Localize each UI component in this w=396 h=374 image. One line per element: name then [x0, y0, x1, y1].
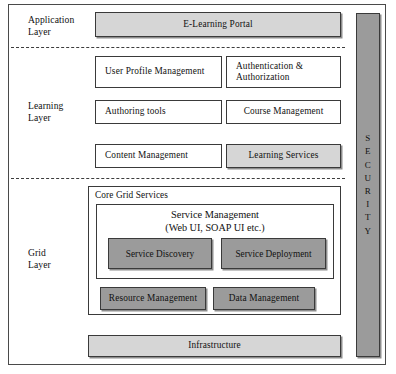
box-e-learning-portal-label: E-Learning Portal	[183, 19, 252, 31]
box-authoring-tools-label: Authoring tools	[105, 106, 166, 118]
box-e-learning-portal[interactable]: E-Learning Portal	[95, 12, 341, 37]
service-management-subtitle: (Web UI, SOAP UI etc.)	[97, 222, 333, 234]
box-data-management-label: Data Management	[229, 293, 300, 305]
layer-label-learning-line2: Layer	[28, 112, 63, 124]
layer-label-learning-line1: Learning	[28, 100, 63, 112]
security-column-label: S E C U R I T Y	[365, 132, 372, 238]
security-letter-s: S	[365, 132, 370, 145]
layer-label-grid-line2: Layer	[28, 259, 51, 271]
box-content-management[interactable]: Content Management	[95, 144, 222, 168]
layer-label-application-line1: Application	[28, 14, 74, 26]
box-authentication-authorization-label: Authentication & Authorization	[236, 61, 340, 84]
box-infrastructure[interactable]: Infrastructure	[88, 335, 341, 357]
layer-label-application: Application Layer	[28, 14, 74, 37]
security-column[interactable]: S E C U R I T Y	[356, 13, 380, 357]
box-service-discovery-label: Service Discovery	[126, 249, 194, 259]
layer-label-grid-line1: Grid	[28, 247, 51, 259]
box-service-discovery[interactable]: Service Discovery	[108, 238, 212, 269]
box-authoring-tools[interactable]: Authoring tools	[95, 100, 222, 124]
layer-label-grid: Grid Layer	[28, 247, 51, 270]
layer-label-application-line2: Layer	[28, 26, 74, 38]
core-grid-services-title: Core Grid Services	[95, 190, 168, 201]
box-user-profile-management[interactable]: User Profile Management	[95, 56, 222, 88]
security-letter-y: Y	[365, 225, 372, 238]
box-service-deployment-label: Service Deployment	[235, 249, 311, 259]
box-learning-services[interactable]: Learning Services	[226, 144, 341, 168]
security-letter-c: C	[365, 159, 371, 172]
separator-application-learning	[11, 47, 345, 48]
box-service-management[interactable]: Service Management (Web UI, SOAP UI etc.…	[96, 204, 334, 279]
separator-learning-grid	[11, 178, 345, 179]
security-letter-r: R	[365, 185, 371, 198]
box-content-management-label: Content Management	[105, 150, 188, 162]
security-letter-e: E	[365, 145, 371, 158]
layer-label-learning: Learning Layer	[28, 100, 63, 123]
security-letter-t: T	[365, 211, 371, 224]
box-course-management[interactable]: Course Management	[226, 100, 341, 124]
diagram-canvas: Application Layer Learning Layer Grid La…	[0, 0, 396, 374]
service-management-title: Service Management	[97, 209, 333, 221]
box-learning-services-label: Learning Services	[249, 150, 319, 162]
box-resource-management-label: Resource Management	[109, 293, 197, 305]
box-data-management[interactable]: Data Management	[213, 287, 315, 310]
box-user-profile-management-label: User Profile Management	[105, 66, 205, 78]
security-letter-i: I	[366, 198, 369, 211]
box-authentication-authorization[interactable]: Authentication & Authorization	[226, 56, 341, 88]
box-course-management-label: Course Management	[244, 106, 324, 118]
box-resource-management[interactable]: Resource Management	[100, 287, 206, 310]
box-core-grid-services[interactable]: Core Grid Services Service Management (W…	[88, 186, 341, 315]
box-service-deployment[interactable]: Service Deployment	[221, 238, 326, 269]
box-infrastructure-label: Infrastructure	[188, 340, 241, 352]
security-letter-u: U	[365, 172, 372, 185]
